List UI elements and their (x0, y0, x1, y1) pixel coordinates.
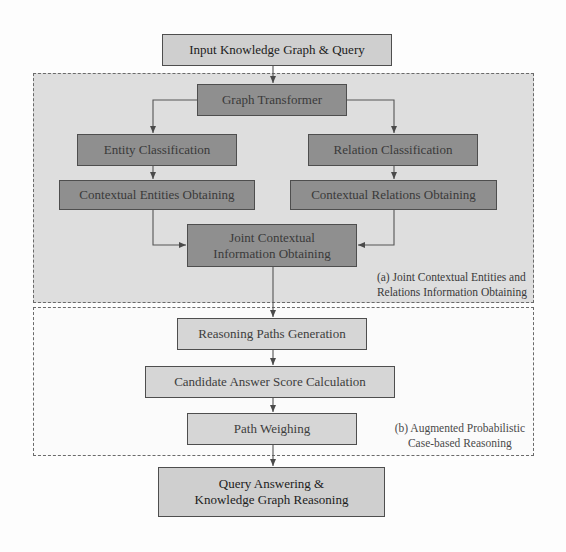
region-b-label: (b) Augmented Probabilistic Case-based R… (395, 421, 525, 451)
region-b-label-line2: Case-based Reasoning (395, 436, 525, 451)
contextual-relations-label: Contextual Relations Obtaining (311, 187, 476, 203)
region-b-label-line1: (b) Augmented Probabilistic (395, 421, 525, 436)
relation-classification-box: Relation Classification (308, 134, 478, 166)
contextual-entities-box: Contextual Entities Obtaining (59, 180, 255, 210)
output-label-line2: Knowledge Graph Reasoning (195, 492, 349, 508)
contextual-relations-box: Contextual Relations Obtaining (290, 180, 497, 210)
path-weighing-box: Path Weighing (187, 413, 357, 445)
reasoning-paths-label: Reasoning Paths Generation (198, 326, 345, 342)
region-a-label-line2: Relations Information Obtaining (377, 285, 527, 300)
joint-label-line1: Joint Contextual (229, 230, 315, 246)
region-a-label-line1: (a) Joint Contextual Entities and (377, 270, 527, 285)
joint-contextual-info-box: Joint Contextual Information Obtaining (187, 224, 357, 267)
entity-classification-box: Entity Classification (77, 134, 237, 166)
region-a-label: (a) Joint Contextual Entities and Relati… (377, 270, 527, 300)
output-label-line1: Query Answering & (219, 476, 324, 492)
contextual-entities-label: Contextual Entities Obtaining (79, 187, 234, 203)
graph-transformer-label: Graph Transformer (222, 92, 322, 108)
joint-label-line2: Information Obtaining (213, 246, 330, 262)
query-answering-output-box: Query Answering & Knowledge Graph Reason… (158, 467, 385, 517)
input-knowledge-graph-query-box: Input Knowledge Graph & Query (162, 34, 392, 66)
candidate-answer-score-box: Candidate Answer Score Calculation (145, 366, 395, 398)
candidate-score-label: Candidate Answer Score Calculation (174, 374, 366, 390)
relation-classification-label: Relation Classification (334, 142, 453, 158)
graph-transformer-box: Graph Transformer (197, 84, 347, 116)
path-weighing-label: Path Weighing (234, 421, 310, 437)
input-box-label: Input Knowledge Graph & Query (189, 42, 364, 58)
reasoning-paths-generation-box: Reasoning Paths Generation (177, 318, 367, 350)
entity-classification-label: Entity Classification (104, 142, 211, 158)
